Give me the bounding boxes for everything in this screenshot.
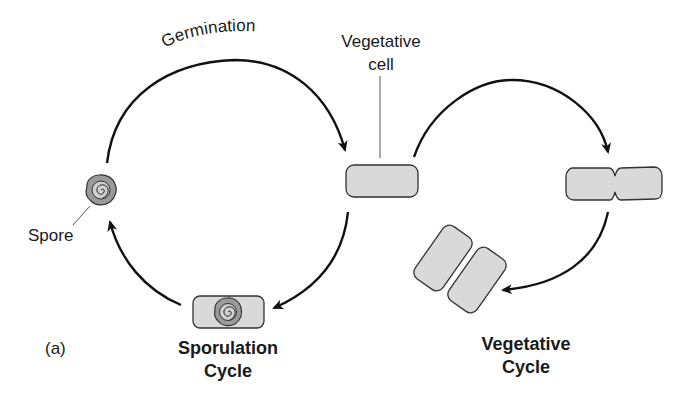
separation-arrow — [503, 212, 608, 290]
sporulating-cell — [193, 296, 264, 328]
sporulation-cycle-title-line1: Sporulation — [178, 338, 278, 358]
division-arrow — [414, 80, 608, 157]
spore — [86, 175, 116, 205]
germination-arrow — [107, 60, 345, 163]
germination-label: Germination — [158, 16, 256, 51]
vegetative-cell-label-line1: Vegetative — [341, 32, 420, 51]
sporulation-arrow — [274, 212, 348, 308]
vegetative-cell — [346, 165, 418, 197]
sporulation-cycle — [107, 60, 348, 308]
vegetative-cycle-title-line1: Vegetative — [481, 334, 570, 354]
sporulation-cycle-title-line2: Cycle — [204, 361, 252, 381]
life-cycle-diagram: Spore Germination Vegetative cell (a) Sp… — [0, 0, 699, 402]
spore-label: Spore — [28, 226, 73, 245]
panel-label: (a) — [45, 339, 66, 358]
vegetative-cell-label-line2: cell — [368, 55, 394, 74]
spore-leader-line — [73, 206, 90, 225]
spore-release-arrow — [110, 222, 181, 305]
vegetative-cycle-title-line2: Cycle — [502, 357, 550, 377]
daughter-cells — [411, 222, 510, 316]
dividing-cell — [566, 167, 662, 200]
